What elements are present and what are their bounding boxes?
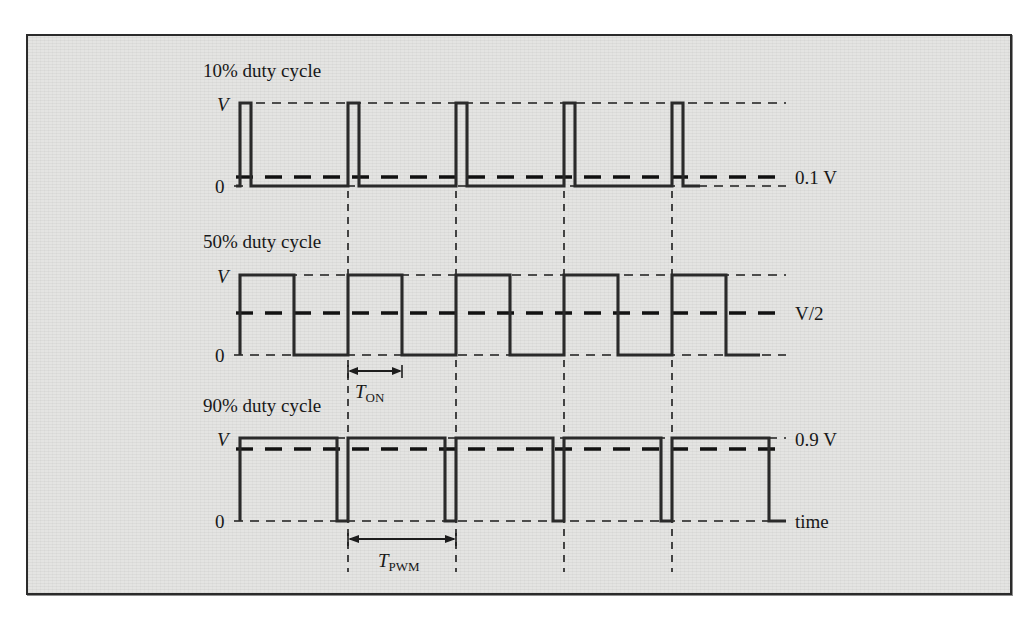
t-on-dimension: TON — [348, 365, 402, 405]
time-axis-label: time — [795, 511, 829, 532]
figure-page: 10% duty cycle V 0 0.1 V 50% duty cycle … — [0, 0, 1030, 629]
t-pwm-dimension: TPWM — [348, 533, 456, 574]
panel-duty-50: 50% duty cycle V 0 V/2 TON — [203, 231, 824, 405]
average-label-duty-10: 0.1 V — [795, 167, 837, 188]
period-guide-lines — [348, 178, 672, 572]
panel-title-duty-10: 10% duty cycle — [203, 60, 321, 81]
panel-title-duty-90: 90% duty cycle — [203, 395, 321, 416]
panel-duty-10: 10% duty cycle V 0 0.1 V — [203, 60, 837, 197]
t-on-arrowhead-left — [348, 367, 358, 375]
t-on-label: TON — [355, 381, 385, 405]
t-on-subscript: ON — [366, 390, 385, 405]
average-label-duty-50: V/2 — [795, 303, 824, 324]
y-bottom-label-duty-10: 0 — [215, 176, 225, 197]
t-pwm-arrowhead-left — [348, 535, 359, 543]
y-top-label-duty-10: V — [217, 94, 231, 115]
y-top-label-duty-50: V — [217, 266, 231, 287]
waveform-duty-10 — [236, 103, 700, 186]
panel-title-duty-50: 50% duty cycle — [203, 231, 321, 252]
pwm-waveform-plot: 10% duty cycle V 0 0.1 V 50% duty cycle … — [0, 0, 1030, 629]
waveform-duty-50 — [240, 275, 760, 355]
t-pwm-arrowhead-right — [445, 535, 456, 543]
y-bottom-label-duty-50: 0 — [215, 345, 225, 366]
y-top-label-duty-90: V — [217, 429, 231, 450]
t-on-arrowhead-right — [392, 367, 402, 375]
y-bottom-label-duty-90: 0 — [215, 511, 225, 532]
panel-duty-90: 90% duty cycle V 0 0.9 V time TPWM — [203, 395, 837, 574]
t-pwm-subscript: PWM — [389, 559, 421, 574]
average-label-duty-90: 0.9 V — [795, 429, 837, 450]
t-pwm-label: TPWM — [378, 550, 420, 574]
